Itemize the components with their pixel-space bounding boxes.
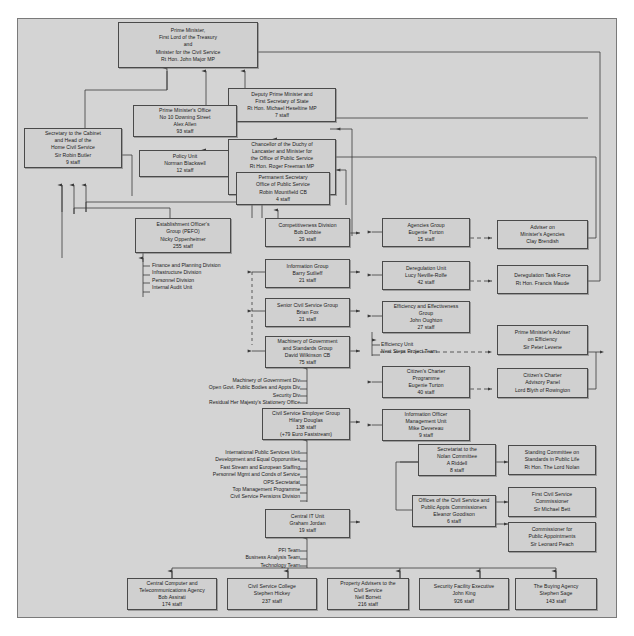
box-secretary-to-cabinet[interactable]: Secretary to the Cabinet and Head of the… (24, 128, 122, 168)
mog-line-4: 75 staff (299, 359, 316, 366)
cpa-line-2: Public Appointments (528, 533, 575, 540)
cdl-line-3: the Office of Public Service (251, 155, 313, 162)
cseg-div-7: Civil Service Pensions Division (148, 493, 300, 500)
box-civil-service-employer-group[interactable]: Civil Service Employer Group Hilary Doug… (262, 408, 350, 440)
box-senior-civil-service-group[interactable]: Senior Civil Service Group Brian Fox 21 … (265, 298, 350, 327)
box-deregulation-task-force[interactable]: Deregulation Task Force Rt Hon. Francis … (497, 265, 588, 294)
box-machinery-of-government-group[interactable]: Machinery of Government and Standards Gr… (265, 336, 350, 368)
box-offices-civil-service-public-appts-commissioners[interactable]: Offices of the Civil Service and Public … (412, 495, 496, 527)
ccp-line-4: 40 staff (417, 389, 434, 396)
box-citizens-charter-programme[interactable]: Citizen's Charter Programme Eugenie Turt… (382, 366, 470, 398)
scsg-line-3: 21 staff (299, 316, 316, 323)
box-prime-ministers-office[interactable]: Prime Minister's Office No 10 Downing St… (133, 105, 237, 137)
box-deregulation-unit[interactable]: Deregulation Unit Lucy Neville-Rolfe 42 … (382, 261, 470, 290)
box-deputy-prime-minister[interactable]: Deputy Prime Minister and First Secretar… (228, 88, 336, 122)
box-establishment-officers-group[interactable]: Establishment Officer's Group (PEFO) Nic… (135, 218, 231, 253)
pm-line-4: Minister for the Civil Service (156, 49, 221, 56)
eff-unit-1: Efficiency Unit (381, 341, 437, 348)
citu-team-3: Technology Team (180, 562, 300, 569)
cseg-div-3: Fast Stream and European Staffing (148, 464, 300, 471)
scspl-line-3: Rt Hon. The Lord Nolan (525, 464, 580, 471)
pacs-line-4: 216 staff (358, 601, 378, 608)
pacs-line-2: Civil Service (354, 587, 383, 594)
cdl-line-2: Lancaster and Minister for (252, 148, 312, 155)
box-adviser-on-ministers-agencies[interactable]: Adviser on Minister's Agencies Clay Bren… (497, 220, 588, 249)
tba-line-1: The Buying Agency (534, 583, 579, 590)
du-line-3: 42 staff (417, 279, 434, 286)
citu-line-1: Central IT Unit (291, 513, 325, 520)
iomu-line-1: Information Officer (405, 411, 448, 418)
eeg-line-4: 27 staff (417, 324, 434, 331)
ocspac-line-2: Public Appts Commissioners (421, 504, 487, 511)
ccap-line-3: Lord Blyth of Rowington (515, 387, 570, 394)
iomu-line-2: Management Unit (406, 418, 447, 425)
eff-unit-2: Next Steps Project Team (381, 348, 437, 355)
box-prime-minister[interactable]: Prime Minister, First Lord of the Treasu… (118, 22, 258, 68)
citu-line-3: 19 staff (299, 527, 316, 534)
citu-line-2: Graham Jordan (289, 520, 325, 527)
sfe-line-3: 926 staff (454, 598, 474, 605)
box-commissioner-public-appointments[interactable]: Commissioner for Public Appointments Sir… (508, 522, 596, 552)
box-citizens-charter-advisory-panel[interactable]: Citizen's Charter Advisory Panel Lord Bl… (497, 368, 588, 398)
pefo-line-1: Establishment Officer's (157, 221, 210, 228)
org-chart-page: Prime Minister, First Lord of the Treasu… (0, 0, 634, 636)
box-nolan-committee-secretariat[interactable]: Secretariat to the Nolan Committee A Rid… (418, 444, 496, 476)
iomu-line-3: Mike Devereau (409, 425, 444, 432)
box-central-it-unit[interactable]: Central IT Unit Graham Jordan 19 staff (265, 509, 350, 538)
fcsc-line-1: First Civil Service (532, 491, 572, 498)
box-policy-unit[interactable]: Policy Unit Norman Blackwell 12 staff (139, 150, 231, 177)
ig-line-1: Information Group (287, 263, 329, 270)
cpa-line-3: Sir Leonard Peach (530, 541, 573, 548)
box-central-computer-telecommunications-agency[interactable]: Central Computer and Telecommunications … (127, 578, 217, 610)
ccap-line-2: Advisory Panel (525, 379, 560, 386)
pefo-line-4: 255 staff (173, 243, 193, 250)
pmae-line-2: on Efficiency (528, 336, 557, 343)
ig-line-3: 21 staff (299, 277, 316, 284)
box-security-facility-executive[interactable]: Security Facility Executive John King 92… (419, 578, 509, 610)
box-information-group[interactable]: Information Group Barry Sutlieff 21 staf… (265, 259, 350, 288)
cseg-div-6: Top Management Programme (148, 486, 300, 493)
mog-div-3: Security Div (148, 392, 300, 399)
mog-line-2: and Standards Group (283, 345, 333, 352)
pm-line-2: First Lord of the Treasury (159, 34, 217, 41)
box-first-civil-service-commissioner[interactable]: First Civil Service Commissioner Sir Mic… (508, 487, 596, 517)
pmo-line-3: Alex Allen (174, 121, 197, 128)
fcsc-line-2: Commissioner (535, 498, 568, 505)
cseg-line-4: (+79 Euro Faststream) (280, 431, 332, 438)
cseg-line-2: Hilary Douglas (289, 417, 323, 424)
box-permanent-secretary[interactable]: Permanent Secretary Office of Public Ser… (236, 172, 330, 205)
ccp-line-3: Eugenie Turton (408, 382, 443, 389)
pu-line-1: Policy Unit (173, 153, 198, 160)
nolan-sec-line-2: Nolan Committee (437, 453, 477, 460)
ag-line-3: 15 staff (417, 236, 434, 243)
stc-line-2: and Head of the (54, 137, 91, 144)
pefo-line-3: Nicky Oppenheimer (160, 236, 206, 243)
ps-line-4: 4 staff (276, 196, 290, 203)
ag-line-1: Agencies Group (407, 222, 444, 229)
box-efficiency-effectiveness-group[interactable]: Efficiency and Effectiveness Group John … (382, 301, 470, 333)
box-agencies-group[interactable]: Agencies Group Eugenie Turton 15 staff (382, 218, 470, 247)
ccta-line-1: Central Computer and (146, 580, 197, 587)
pmae-line-1: Prime Minister's Adviser (515, 329, 570, 336)
cseg-line-3: 138 staff (296, 424, 316, 431)
ama-line-3: Clay Brendish (526, 238, 558, 245)
scsg-line-2: Brian Fox (296, 309, 318, 316)
eeg-line-3: John Oughton (410, 317, 443, 324)
pefo-div-1: Finance and Planning Division (152, 262, 221, 269)
box-property-advisers-civil-service[interactable]: Property Advisers to the Civil Service N… (327, 578, 409, 610)
ocspac-line-1: Offices of the Civil Service and (419, 497, 490, 504)
box-competitiveness-division[interactable]: Competitiveness Division Bob Dobbie 29 s… (265, 218, 350, 247)
box-information-officer-management-unit[interactable]: Information Officer Management Unit Mike… (382, 409, 470, 441)
box-pm-adviser-on-efficiency[interactable]: Prime Minister's Adviser on Efficiency S… (497, 325, 588, 355)
dpm-line-3: Rt Hon. Michael Heseltine MP (247, 105, 316, 112)
box-the-buying-agency[interactable]: The Buying Agency Stephen Sage 143 staff (515, 578, 597, 610)
ig-line-2: Barry Sutlieff (293, 270, 323, 277)
cseg-line-1: Civil Service Employer Group (272, 410, 340, 417)
box-civil-service-college[interactable]: Civil Service College Stephen Hickey 237… (227, 578, 317, 610)
ps-line-3: Robin Mountfield CB (259, 189, 307, 196)
dtf-line-1: Deregulation Task Force (514, 272, 570, 279)
pefo-div-2: Infrastructure Division (152, 269, 221, 276)
ama-line-2: Minister's Agencies (520, 231, 564, 238)
mog-line-1: Machinery of Government (278, 338, 338, 345)
box-standing-committee-standards-public-life[interactable]: Standing Committee on Standards in Publi… (508, 445, 596, 475)
